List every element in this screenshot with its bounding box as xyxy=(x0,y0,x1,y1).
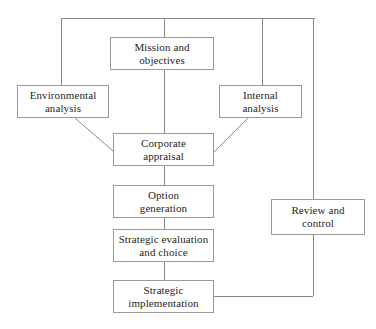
flowchart-canvas: Mission and objectives Environmental ana… xyxy=(0,0,376,329)
node-label: Environmental analysis xyxy=(18,89,108,115)
node-internal-analysis[interactable]: Internal analysis xyxy=(219,85,302,118)
node-strategic-implementation[interactable]: Strategic implementation xyxy=(113,280,214,313)
node-label: Corporate appraisal xyxy=(114,137,213,163)
node-strategic-evaluation-and-choice[interactable]: Strategic evaluation and choice xyxy=(113,229,214,262)
node-label: Mission and objectives xyxy=(111,41,213,67)
node-corporate-appraisal[interactable]: Corporate appraisal xyxy=(113,133,214,166)
node-label: Review and control xyxy=(272,204,364,230)
connector-internal-to-corporate xyxy=(214,118,248,152)
node-review-and-control[interactable]: Review and control xyxy=(271,199,365,235)
node-environmental-analysis[interactable]: Environmental analysis xyxy=(17,85,109,118)
node-label: Strategic evaluation and choice xyxy=(114,233,213,259)
node-option-generation[interactable]: Option generation xyxy=(113,185,214,218)
node-mission-and-objectives[interactable]: Mission and objectives xyxy=(110,37,214,70)
node-label: Option generation xyxy=(114,189,213,215)
connector-environmental-to-corporate xyxy=(75,118,113,151)
node-label: Internal analysis xyxy=(220,89,301,115)
node-label: Strategic implementation xyxy=(114,284,213,310)
